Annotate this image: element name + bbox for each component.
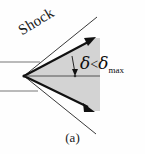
figure-caption: (a) — [0, 130, 145, 146]
less-than-symbol: < — [90, 57, 98, 72]
deflection-angle-expression: δ<δmax — [80, 55, 124, 75]
delta-max-symbol: δ — [98, 53, 108, 73]
delta-symbol: δ — [80, 53, 90, 73]
figure-container: Shock δ<δmax (a) — [0, 0, 145, 154]
wedge-apex-point — [22, 74, 25, 77]
delta-max-subscript: max — [108, 65, 124, 75]
angle-vertex-dot — [74, 75, 77, 78]
